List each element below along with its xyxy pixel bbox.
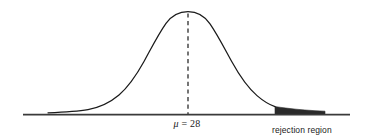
rejection-region-label: rejection region xyxy=(272,126,332,135)
normal-distribution-figure: μ = 28 rejection region xyxy=(0,0,374,140)
rejection-region-shape xyxy=(275,107,325,115)
mean-value: 28 xyxy=(190,118,200,129)
bell-curve-path xyxy=(48,12,275,113)
mean-equals-sign: = xyxy=(179,118,190,129)
